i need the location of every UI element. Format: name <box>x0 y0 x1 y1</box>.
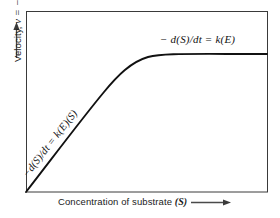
plot-canvas <box>0 0 280 218</box>
right-arrow-icon <box>191 199 231 205</box>
x-axis-label-symbol: (S) <box>175 196 188 207</box>
x-axis-label: Concentration of substrate (S) <box>58 196 187 207</box>
x-axis-label-text: Concentration of substrate <box>58 196 175 207</box>
enzyme-kinetics-figure: − d(S)/dt = k(E) −d(S)/dt = k(E)(S) Velo… <box>0 0 280 218</box>
y-axis-label-text: Velocity, <box>12 24 23 62</box>
y-axis-label-symbol: v = − d(S)/dt <box>12 0 23 24</box>
plateau-equation-label: − d(S)/dt = k(E) <box>160 33 235 45</box>
